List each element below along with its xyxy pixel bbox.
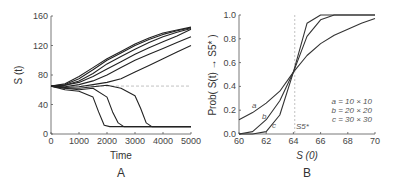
panel-b-ylabel: Prob( S(t) → S5* ) [207, 34, 218, 115]
x-tick-label: 1000 [69, 136, 89, 146]
curve-label-c: c [272, 121, 276, 130]
y-tick-label: 0.8 [223, 34, 236, 44]
y-tick-label: 120 [33, 41, 48, 51]
x-tick-label: 3000 [125, 136, 145, 146]
legend-a: a = 10 × 10 [332, 97, 373, 106]
panel-b-chart: 6062646668700.00.20.40.60.81.0 a = 10 × … [207, 10, 380, 180]
panel-b-xlabel: S (0) [296, 150, 318, 161]
curve-label-b: b [262, 112, 267, 121]
x-tick-label: 70 [370, 136, 380, 146]
panel-a-series [51, 27, 191, 127]
curve-label-a: a [252, 101, 257, 110]
legend-c: c = 30 × 30 [332, 115, 373, 124]
y-tick-label: 0 [43, 129, 48, 139]
panel-a-chart: 01000200030004000500004080120160 Time S … [13, 11, 201, 180]
series-line [51, 29, 191, 86]
y-tick-label: 1.0 [223, 10, 236, 20]
x-tick-label: 64 [288, 136, 298, 146]
y-tick-label: 0.4 [223, 81, 236, 91]
x-tick-label: 68 [343, 136, 353, 146]
x-tick-label: 62 [261, 136, 271, 146]
panel-a-xlabel: Time [110, 150, 132, 161]
y-tick-label: 0.2 [223, 105, 236, 115]
critical-label: S5* [296, 122, 310, 131]
x-tick-label: 2000 [97, 136, 117, 146]
panel-a-ylabel: S (t) [13, 66, 24, 85]
y-tick-label: 0.6 [223, 58, 236, 68]
x-tick-label: 0 [48, 136, 53, 146]
series-line [51, 29, 191, 87]
y-tick-label: 80 [38, 70, 48, 80]
legend-b: b = 20 × 20 [332, 106, 373, 115]
series-line [51, 86, 191, 127]
series-line [51, 85, 191, 126]
series-line [51, 86, 191, 127]
panel-a-letter: A [117, 166, 125, 180]
y-tick-label: 40 [38, 100, 48, 110]
y-tick-label: 160 [33, 11, 48, 21]
panel-b-letter: B [303, 166, 311, 180]
x-tick-label: 5000 [181, 136, 201, 146]
y-tick-label: 0.0 [223, 129, 236, 139]
figure: 01000200030004000500004080120160 Time S … [0, 0, 401, 186]
x-tick-label: 66 [316, 136, 326, 146]
x-tick-label: 4000 [153, 136, 173, 146]
